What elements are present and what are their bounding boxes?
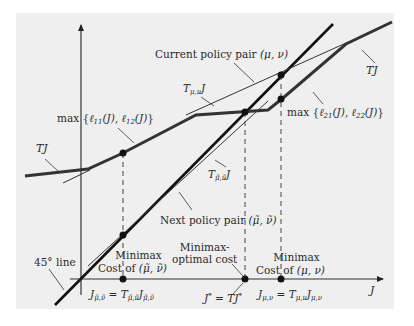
- t-symbol: T: [208, 168, 215, 180]
- rbrace: }: [147, 112, 154, 124]
- equals: =: [109, 288, 118, 300]
- optimal-cost-text: optimal cost: [172, 253, 237, 265]
- tj-left-text: TJ: [36, 142, 48, 155]
- subscript-tilde: μ̃,ν̃: [128, 294, 139, 302]
- leader-t-tilde: [215, 160, 226, 167]
- current-policy-math: (μ, ν): [260, 48, 288, 60]
- comma: ,: [345, 106, 348, 118]
- leader-tj-left: [45, 159, 58, 171]
- subscript-mu-nu: μ,ν: [296, 294, 307, 302]
- label-minimax-optimal-cost: Minimax- optimal cost: [172, 241, 237, 265]
- tj-curve: [25, 22, 392, 176]
- j-symbol: J: [201, 82, 205, 94]
- equals: =: [215, 292, 224, 304]
- j-symbol: J: [226, 168, 230, 180]
- label-45-line: 45° line: [34, 257, 76, 268]
- line-45-text: 45° line: [34, 256, 76, 268]
- current-policy-text: Current policy pair: [155, 48, 260, 60]
- of-j: (J): [135, 112, 147, 124]
- subscript-tilde: μ̃,ν̃: [94, 294, 105, 302]
- minimax-dash-text: Minimax-: [172, 241, 237, 253]
- leader-45-line: [49, 269, 64, 290]
- max-text: max: [57, 112, 79, 124]
- cost-of-text: Cost of: [98, 262, 139, 274]
- subscript-tilde: μ̃,ν̃: [143, 294, 154, 302]
- leader-max-l11: [118, 128, 134, 143]
- leader-max-l21: [313, 92, 323, 104]
- minimax-text: Minimax: [98, 249, 167, 262]
- label-j-mu-nu-eq: Jμ,ν = Tμ,νJμ,ν: [258, 289, 322, 302]
- t-symbol: T: [183, 82, 190, 94]
- next-policy-text: Next policy pair: [160, 214, 249, 226]
- tj-right-text: TJ: [366, 64, 378, 77]
- of-j: (J): [102, 112, 114, 124]
- pair-mu-nu: (μ, ν): [297, 264, 325, 276]
- subscript-tilde: μ̃,ν̃: [215, 174, 226, 182]
- point-next-policy-on-45: [120, 232, 127, 239]
- label-j-star-eq: J* = TJ*: [204, 293, 242, 304]
- leader-tj-right: [362, 50, 375, 63]
- label-max-l11-l12: max {ℓ11(J), ℓ12(J)}: [57, 113, 154, 126]
- label-max-l21-l22: max {ℓ21(J), ℓ22(J)}: [287, 107, 384, 120]
- subscript-mu-nu: μ,ν: [262, 294, 273, 302]
- equals: =: [277, 288, 286, 300]
- label-x-axis-j: J: [370, 285, 374, 296]
- max-text: max: [287, 106, 309, 118]
- sub-12: 12: [126, 118, 135, 126]
- label-t-tilde-j: Tμ̃,ν̃J: [208, 169, 230, 182]
- t-symbol: T: [121, 288, 128, 300]
- point-j-tilde: [120, 276, 127, 283]
- minimax-text: Minimax: [256, 251, 325, 264]
- comma: ,: [115, 112, 118, 124]
- of-j: (J): [365, 106, 377, 118]
- label-current-policy-pair: Current policy pair (μ, ν): [155, 49, 288, 60]
- leader-minimax-optimal: [232, 264, 243, 276]
- x-axis-j-text: J: [370, 284, 374, 297]
- leader-t-mu-nu: [201, 97, 214, 106]
- t-symbol: T: [289, 288, 296, 300]
- point-max-l21-l22: [278, 96, 285, 103]
- next-policy-math: (μ̃, ν̃): [249, 214, 277, 226]
- of-j: (J): [332, 106, 344, 118]
- star: *: [238, 292, 242, 300]
- point-current-policy: [278, 72, 285, 79]
- point-max-l11-l12: [120, 150, 127, 157]
- label-tj-right: TJ: [366, 65, 378, 76]
- label-minimax-cost-tilde: Minimax Cost of (μ̃, ν̃): [98, 249, 167, 275]
- rbrace: }: [377, 106, 384, 118]
- leader-next-policy: [179, 192, 192, 210]
- subscript-mu-nu: μ,ν: [190, 88, 201, 96]
- sub-22: 22: [356, 112, 365, 120]
- label-j-tilde-eq: Jμ̃,ν̃ = Tμ̃,ν̃Jμ̃,ν̃: [90, 289, 154, 302]
- star: *: [208, 292, 212, 300]
- pair-tilde: (μ̃, ν̃): [139, 262, 167, 274]
- cost-of-text: Cost of: [256, 264, 297, 276]
- label-tj-left: TJ: [36, 143, 48, 154]
- subscript-mu-nu: μ,ν: [311, 294, 322, 302]
- label-minimax-cost: Minimax Cost of (μ, ν): [256, 251, 325, 277]
- label-t-mu-nu-j: Tμ,νJ: [183, 83, 205, 96]
- leader-current-policy: [234, 63, 254, 82]
- label-next-policy-pair: Next policy pair (μ̃, ν̃): [160, 215, 277, 226]
- point-j-star: [242, 276, 249, 283]
- point-fixed-star: [242, 109, 249, 116]
